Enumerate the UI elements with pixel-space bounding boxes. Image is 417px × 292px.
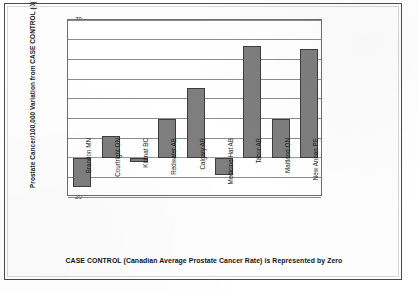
x-tick-label: Tabor AB	[254, 138, 264, 200]
x-tick-label: Brandon MN	[84, 138, 94, 200]
x-tick-label: New Annan PE	[311, 138, 321, 200]
x-tick-label: Courtright ON	[113, 138, 123, 200]
figure-frame: Prostate Cancer/100,000 Variation from C…	[4, 3, 402, 280]
x-tick-label: Maitland ON	[283, 138, 293, 200]
bar-chart: Prostate Cancer/100,000 Variation from C…	[5, 4, 403, 281]
x-tick-label: Calgary AB	[198, 138, 208, 200]
chart-caption: CASE CONTROL (Canadian Average Prostate …	[5, 257, 403, 264]
x-tick-label: Medicine Hat AB	[226, 138, 236, 200]
x-tick-label: Redwater AB	[169, 138, 179, 200]
x-tick-label: Kitimat BC	[141, 138, 151, 200]
y-axis-title: Prostate Cancer/100,000 Variation from C…	[26, 18, 40, 188]
